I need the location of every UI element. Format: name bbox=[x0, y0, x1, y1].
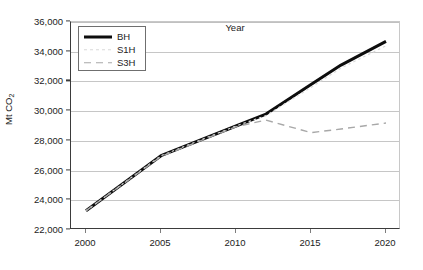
y-tick-label: 36,000 bbox=[34, 16, 63, 27]
legend-swatch-s1h bbox=[83, 44, 113, 55]
x-tick-mark bbox=[160, 229, 161, 233]
y-tick-label: 34,000 bbox=[34, 45, 63, 56]
x-tick-label: 2000 bbox=[74, 237, 95, 248]
legend-swatch-bh bbox=[83, 31, 113, 42]
x-axis-ticks: 20002005201020152020 bbox=[0, 229, 423, 270]
y-tick-label: 24,000 bbox=[34, 194, 63, 205]
y-tick-label: 32,000 bbox=[34, 75, 63, 86]
x-tick-mark bbox=[385, 229, 386, 233]
x-tick-mark bbox=[85, 229, 86, 233]
legend: BH S1H S3H bbox=[78, 26, 146, 71]
legend-label-bh: BH bbox=[113, 31, 130, 42]
x-tick-mark bbox=[310, 229, 311, 233]
y-tick-label: 28,000 bbox=[34, 134, 63, 145]
legend-label-s3h: S3H bbox=[113, 57, 135, 68]
y-tick-label: 26,000 bbox=[34, 164, 63, 175]
line-chart: Mt CO2 22,00024,00026,00028,00030,00032,… bbox=[0, 0, 423, 270]
legend-item-s1h: S1H bbox=[83, 43, 141, 56]
x-axis-title: Year bbox=[225, 22, 244, 33]
x-tick-label: 2020 bbox=[374, 237, 395, 248]
x-tick-label: 2010 bbox=[224, 237, 245, 248]
legend-label-s1h: S1H bbox=[113, 44, 135, 55]
x-tick-mark bbox=[235, 229, 236, 233]
series-line-s3h bbox=[86, 120, 386, 211]
legend-swatch-s3h bbox=[83, 57, 113, 68]
legend-item-s3h: S3H bbox=[83, 56, 141, 69]
y-tick-label: 30,000 bbox=[34, 105, 63, 116]
x-tick-label: 2005 bbox=[149, 237, 170, 248]
x-tick-label: 2015 bbox=[299, 237, 320, 248]
legend-item-bh: BH bbox=[83, 30, 141, 43]
